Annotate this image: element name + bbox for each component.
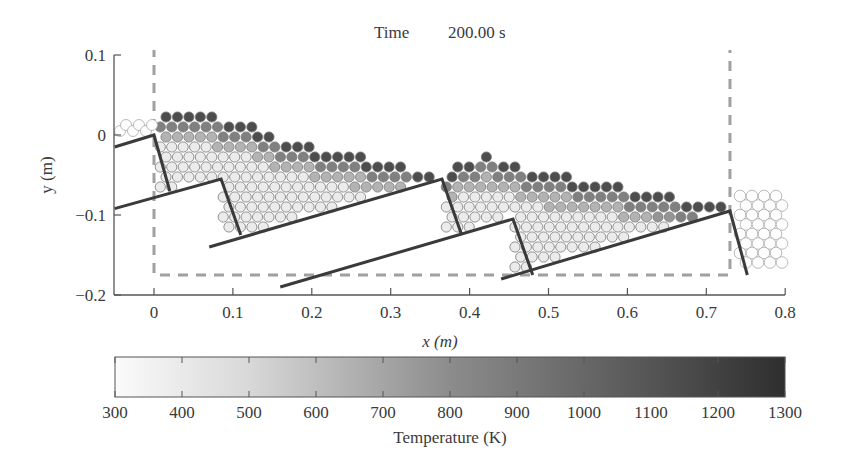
axes: 00.10.20.30.40.50.60.70.80.10−0.1−0.2 bbox=[75, 46, 796, 322]
x-tick-label: 0.8 bbox=[775, 303, 796, 322]
y-axis-label: y (m) bbox=[37, 156, 56, 193]
x-axis-label: x (m) bbox=[421, 332, 458, 351]
x-tick-label: 0.2 bbox=[301, 303, 322, 322]
colorbar-tick-label: 1200 bbox=[701, 403, 735, 422]
x-tick-label: 0.5 bbox=[538, 303, 559, 322]
colorbar-tick-label: 400 bbox=[169, 403, 195, 422]
y-tick-label: −0.1 bbox=[75, 206, 106, 225]
colorbar: 3004005006007008009001000110012001300 Te… bbox=[102, 357, 802, 447]
grate-1 bbox=[115, 179, 241, 235]
plot-area bbox=[115, 47, 788, 287]
colorbar-tick-label: 700 bbox=[370, 403, 396, 422]
x-tick-label: 0.3 bbox=[380, 303, 401, 322]
x-tick-label: 0.7 bbox=[696, 303, 718, 322]
colorbar-tick-label: 900 bbox=[504, 403, 530, 422]
grate-3 bbox=[280, 219, 532, 287]
colorbar-tick-label: 300 bbox=[102, 403, 128, 422]
time-value: 200.00 s bbox=[448, 23, 506, 42]
particles bbox=[115, 112, 788, 272]
colorbar-label: Temperature (K) bbox=[393, 428, 507, 447]
figure: Time 200.00 s 00.10.20.30.40.50.60.70.80… bbox=[0, 0, 841, 471]
colorbar-tick-label: 1000 bbox=[567, 403, 601, 422]
colorbar-tick-label: 600 bbox=[303, 403, 329, 422]
colorbar-tick-label: 1100 bbox=[634, 403, 667, 422]
x-tick-label: 0 bbox=[150, 303, 159, 322]
y-tick-label: −0.2 bbox=[75, 286, 106, 305]
colorbar-tick-label: 800 bbox=[437, 403, 463, 422]
time-label: Time bbox=[374, 23, 409, 42]
colorbar-tick-label: 1300 bbox=[768, 403, 802, 422]
x-tick-label: 0.6 bbox=[617, 303, 638, 322]
y-tick-label: 0.1 bbox=[85, 46, 106, 65]
x-tick-label: 0.1 bbox=[222, 303, 243, 322]
y-tick-label: 0 bbox=[98, 126, 107, 145]
x-tick-label: 0.4 bbox=[459, 303, 481, 322]
colorbar-tick-label: 500 bbox=[236, 403, 262, 422]
